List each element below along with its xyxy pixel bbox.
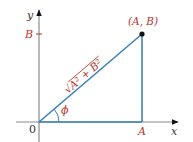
diagram-canvas: y x 0 B A (A, B) ϕ √A² + B² (0, 0, 193, 142)
point-a-b (139, 31, 144, 36)
y-tick-label-b: B (24, 28, 33, 41)
angle-label-phi: ϕ (61, 104, 69, 117)
point-label: (A, B) (128, 15, 158, 27)
origin-label: 0 (29, 123, 36, 136)
x-tick-label-a: A (137, 125, 146, 138)
angle-arc (54, 109, 59, 122)
hypotenuse-label: √A² + B² (62, 57, 105, 96)
x-axis-label: x (171, 125, 178, 138)
y-axis-label: y (26, 9, 34, 22)
